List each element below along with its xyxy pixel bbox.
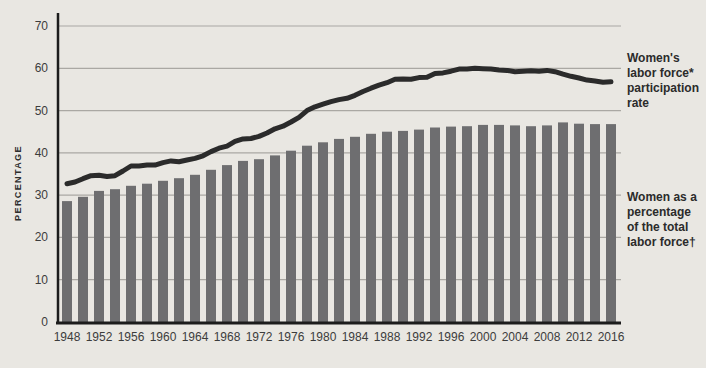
y-tick-label: 50 (35, 104, 49, 118)
bar (558, 122, 568, 322)
bar (78, 197, 88, 322)
x-tick-label: 1992 (406, 330, 433, 344)
x-tick-label: 1952 (86, 330, 113, 344)
bar (158, 181, 168, 322)
bar (190, 175, 200, 322)
bar (542, 125, 552, 322)
bar (174, 178, 184, 322)
labor-force-chart: 0102030405060701948195219561960196419681… (0, 0, 706, 368)
bar (494, 125, 504, 322)
bar (462, 126, 472, 322)
bar-series-label: Women as a percentage of the total labor… (627, 190, 705, 250)
y-tick-label: 10 (35, 273, 49, 287)
x-tick-label: 1976 (278, 330, 305, 344)
y-tick-label: 60 (35, 61, 49, 75)
x-tick-label: 2012 (566, 330, 593, 344)
bar (510, 125, 520, 322)
y-tick-label: 0 (41, 315, 48, 329)
bar (478, 125, 488, 322)
bar (94, 191, 104, 322)
bar (590, 124, 600, 322)
x-tick-label: 1964 (182, 330, 209, 344)
y-tick-label: 20 (35, 230, 49, 244)
line-series-label: Women's labor force* participation rate (627, 51, 705, 111)
bar (270, 155, 280, 322)
x-tick-label: 1972 (246, 330, 273, 344)
x-tick-label: 1988 (374, 330, 401, 344)
x-tick-label: 2000 (470, 330, 497, 344)
chart-svg: 0102030405060701948195219561960196419681… (0, 0, 706, 368)
bar (254, 159, 264, 322)
bar (526, 126, 536, 322)
x-tick-label: 1996 (438, 330, 465, 344)
bar (430, 128, 440, 323)
y-tick-label: 40 (35, 146, 49, 160)
bar (302, 146, 312, 322)
bar (382, 132, 392, 322)
x-tick-label: 1980 (310, 330, 337, 344)
bar (206, 170, 216, 322)
x-tick-label: 1968 (214, 330, 241, 344)
bar (398, 131, 408, 322)
bar (606, 124, 616, 322)
y-axis-title: PERCENTAGE (13, 133, 23, 233)
bar (350, 137, 360, 322)
x-tick-label: 1948 (54, 330, 81, 344)
bar (126, 186, 136, 322)
bar (334, 139, 344, 322)
bar (574, 124, 584, 322)
bar (446, 127, 456, 322)
bar (286, 151, 296, 322)
x-tick-label: 2008 (534, 330, 561, 344)
x-tick-label: 1984 (342, 330, 369, 344)
bar (222, 165, 232, 322)
bar (238, 161, 248, 322)
bar (366, 134, 376, 322)
bar (110, 189, 120, 322)
x-tick-label: 2004 (502, 330, 529, 344)
x-tick-label: 1960 (150, 330, 177, 344)
bar (62, 201, 72, 322)
y-tick-label: 70 (35, 19, 49, 33)
x-tick-label: 1956 (118, 330, 145, 344)
bar (414, 130, 424, 322)
y-tick-label: 30 (35, 188, 49, 202)
x-tick-label: 2016 (598, 330, 625, 344)
bar (318, 142, 328, 322)
bar (142, 184, 152, 322)
